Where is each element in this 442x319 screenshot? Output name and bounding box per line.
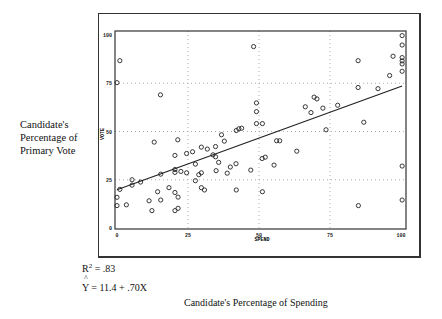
- data-point: [234, 188, 238, 192]
- data-point: [252, 44, 256, 48]
- data-point: [228, 165, 232, 169]
- data-point: [400, 69, 404, 73]
- y-tick-label: 0: [109, 226, 112, 232]
- y-axis-label: VOTE: [100, 128, 106, 140]
- y-outer-label: Candidate's Percentage of Primary Vote: [20, 118, 100, 157]
- data-point: [118, 59, 122, 63]
- data-point: [356, 204, 360, 208]
- data-point: [202, 188, 206, 192]
- data-point: [184, 151, 188, 155]
- data-point: [400, 198, 404, 202]
- data-point: [205, 147, 209, 151]
- data-point: [152, 140, 156, 144]
- data-point: [376, 87, 380, 91]
- data-point: [184, 171, 188, 175]
- data-point: [260, 190, 264, 194]
- data-point: [260, 121, 264, 125]
- x-axis-label: SPEND: [254, 237, 269, 243]
- data-point: [388, 73, 392, 77]
- data-point: [217, 160, 221, 164]
- data-point: [356, 85, 360, 89]
- data-point: [130, 178, 134, 182]
- regression-line: [117, 86, 402, 190]
- y-tick-label: 75: [106, 81, 112, 87]
- y-tick-label: 50: [106, 130, 112, 136]
- data-point: [193, 162, 197, 166]
- data-point: [400, 43, 404, 47]
- data-point: [176, 138, 180, 142]
- data-point: [272, 163, 276, 167]
- r2-prefix: R: [82, 263, 89, 274]
- data-point: [324, 128, 328, 132]
- data-point: [309, 110, 313, 114]
- equation-text: Y = 11.4 + .70X: [82, 282, 147, 293]
- hat-symbol: ^: [84, 274, 88, 283]
- data-point: [249, 168, 253, 172]
- r-squared: R2 = .83: [82, 262, 115, 274]
- x-tick-label: 75: [327, 233, 333, 239]
- data-point: [400, 62, 404, 66]
- data-point: [303, 105, 307, 109]
- data-point: [336, 103, 340, 107]
- data-point: [199, 145, 203, 149]
- data-point: [190, 150, 194, 154]
- data-point: [356, 59, 360, 63]
- data-point: [179, 169, 183, 173]
- data-point: [225, 171, 229, 175]
- data-points: [115, 33, 404, 212]
- data-point: [400, 164, 404, 168]
- data-point: [234, 162, 238, 166]
- data-point: [173, 153, 177, 157]
- data-point: [362, 120, 366, 124]
- data-point: [167, 186, 171, 190]
- data-point: [400, 33, 404, 37]
- data-point: [147, 199, 151, 203]
- data-point: [222, 139, 226, 143]
- r2-value: = .83: [92, 263, 115, 274]
- data-point: [219, 133, 223, 137]
- data-point: [254, 110, 258, 114]
- data-point: [158, 93, 162, 97]
- data-point: [240, 126, 244, 130]
- regression-equation: ^Y = 11.4 + .70X: [82, 282, 147, 293]
- data-point: [321, 106, 325, 110]
- data-point: [176, 206, 180, 210]
- data-point: [173, 190, 177, 194]
- data-point: [176, 195, 180, 199]
- data-point: [254, 121, 258, 125]
- y-tick-label: 25: [106, 178, 112, 184]
- data-point: [124, 203, 128, 207]
- data-point: [213, 144, 217, 148]
- x-tick-label: 0: [115, 233, 118, 239]
- axis-ticks: 02550751000255075100: [103, 33, 406, 239]
- data-point: [254, 101, 258, 105]
- y-tick-label: 100: [103, 33, 112, 39]
- data-point: [391, 54, 395, 58]
- x-outer-label: Candidate's Percentage of Spending: [184, 297, 328, 308]
- data-point: [193, 179, 197, 183]
- x-tick-label: 100: [396, 233, 405, 239]
- data-point: [156, 190, 160, 194]
- scatter-plot: 02550751000255075100 VOTE SPEND: [0, 0, 442, 319]
- data-point: [159, 198, 163, 202]
- data-point: [214, 169, 218, 173]
- x-tick-label: 25: [185, 233, 191, 239]
- data-point: [295, 149, 299, 153]
- data-point: [150, 209, 154, 213]
